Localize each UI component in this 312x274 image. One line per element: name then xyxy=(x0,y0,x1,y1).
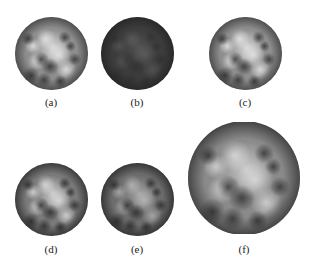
label-c: (c) xyxy=(225,96,265,108)
label-d: (d) xyxy=(31,243,71,255)
disk-texture-d xyxy=(15,163,88,236)
image-disk-f xyxy=(188,121,300,235)
label-a: (a) xyxy=(31,96,71,108)
disk-rim-shading xyxy=(101,163,174,236)
label-f: (f) xyxy=(224,243,264,255)
disk-texture-a xyxy=(15,17,88,90)
disk-rim-shading xyxy=(188,122,300,234)
image-disk-a xyxy=(15,17,88,90)
image-disk-b xyxy=(101,17,174,90)
disk-texture-f xyxy=(188,121,300,235)
image-disk-e xyxy=(101,163,174,236)
disk-texture-c xyxy=(209,17,282,90)
image-disk-d xyxy=(15,163,88,236)
disk-rim-shading xyxy=(209,17,282,90)
disk-texture-b xyxy=(101,17,174,90)
label-e: (e) xyxy=(117,243,157,255)
label-b: (b) xyxy=(117,96,157,108)
disk-rim-shading xyxy=(15,163,88,236)
disk-rim-shading xyxy=(101,17,174,90)
image-disk-c xyxy=(209,17,282,90)
disk-texture-e xyxy=(101,163,174,236)
disk-rim-shading xyxy=(15,17,88,90)
